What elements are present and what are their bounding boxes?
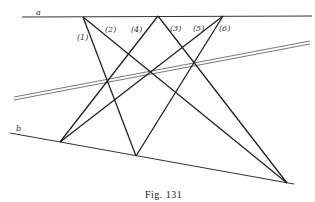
figure-caption: Fig. 131 (145, 189, 182, 200)
label-line-2: (2) (105, 25, 116, 34)
double-line (14, 41, 310, 100)
label-line-6: (6) (219, 24, 230, 33)
line-a (22, 16, 312, 17)
label-line-3: (3) (170, 24, 181, 33)
line-3 (158, 16, 287, 183)
line-4 (60, 16, 158, 142)
label-a: a (36, 8, 41, 17)
label-line-1: (1) (77, 33, 88, 42)
line-6 (136, 16, 223, 156)
crossing-lines (60, 16, 287, 183)
line-b (10, 133, 294, 184)
diagram-canvas: a b (1) (2) (4) (3) (5) (6) Fig. 131 (0, 0, 315, 202)
label-line-5: (5) (193, 24, 204, 33)
label-line-4: (4) (131, 25, 142, 34)
label-b: b (16, 124, 21, 133)
